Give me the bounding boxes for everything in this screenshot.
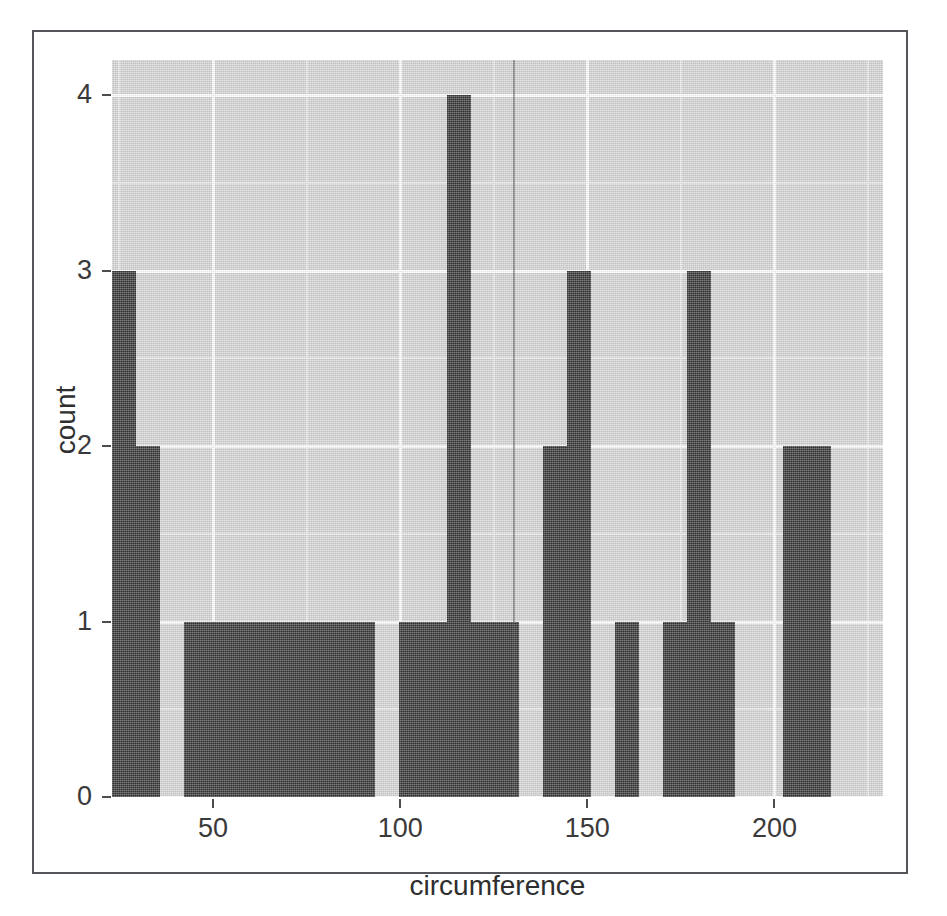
- y-tick-mark: [102, 270, 111, 272]
- x-tick-label: 100: [350, 815, 450, 842]
- gridline-h-minor: [112, 533, 883, 535]
- gridline-h-major: [112, 270, 883, 273]
- gridline-h-major: [112, 445, 883, 448]
- y-axis-title: count: [50, 340, 82, 500]
- x-tick-mark: [773, 799, 775, 808]
- histogram-plot: 0123450100150200 circumference count: [34, 32, 910, 876]
- histogram-bar: [543, 446, 567, 797]
- histogram-bar: [112, 271, 136, 797]
- histogram-bar: [399, 622, 447, 797]
- x-tick-label: 50: [163, 815, 263, 842]
- y-tick-mark: [102, 621, 111, 623]
- gridline-h-minor: [112, 357, 883, 359]
- figure-frame: 0123450100150200 circumference count: [32, 30, 908, 874]
- y-tick-mark: [102, 796, 111, 798]
- x-axis-title: circumference: [112, 870, 883, 902]
- y-tick-label: 3: [50, 257, 92, 284]
- histogram-bar: [447, 95, 471, 797]
- gridline-v-minor: [867, 60, 869, 797]
- y-tick-label: 4: [50, 81, 92, 108]
- x-tick-mark: [212, 799, 214, 808]
- y-tick-mark: [102, 445, 111, 447]
- histogram-bar: [615, 622, 639, 797]
- scan-streak-artifact: [513, 60, 515, 797]
- x-tick-mark: [586, 799, 588, 808]
- histogram-bar: [663, 622, 687, 797]
- histogram-bar: [136, 446, 160, 797]
- histogram-bar: [783, 446, 831, 797]
- x-tick-mark: [399, 799, 401, 808]
- y-tick-label: 0: [50, 783, 92, 810]
- gridline-v-major: [773, 60, 776, 797]
- histogram-bar: [184, 622, 376, 797]
- histogram-bar: [687, 271, 711, 797]
- gridline-h-major: [112, 94, 883, 97]
- x-tick-label: 200: [724, 815, 824, 842]
- y-tick-label: 1: [50, 608, 92, 635]
- scanned-figure-page: 0123450100150200 circumference count: [0, 0, 947, 916]
- plot-panel: [112, 60, 883, 797]
- gridline-h-minor: [112, 182, 883, 184]
- y-tick-mark: [102, 94, 111, 96]
- x-tick-label: 150: [537, 815, 637, 842]
- histogram-bar: [711, 622, 735, 797]
- histogram-bar: [567, 271, 591, 797]
